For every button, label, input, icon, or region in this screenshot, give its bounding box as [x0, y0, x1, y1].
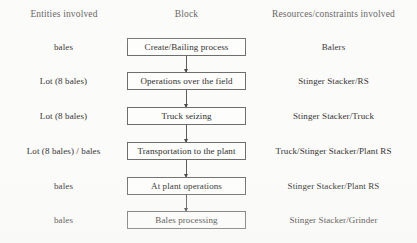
flow-row: bales At plant operations Stinger Stacke… [0, 177, 417, 195]
process-box[interactable]: Transportation to the plant [127, 142, 246, 160]
process-box[interactable]: Create/Bailing process [127, 38, 246, 56]
process-box[interactable]: At plant operations [127, 177, 246, 195]
arrow-down-icon [186, 125, 187, 142]
process-box[interactable]: Operations over the field [127, 72, 246, 90]
flow-row: Lot (8 bales) / bales Transportation to … [0, 142, 417, 160]
flow-row: Lot (8 bales) Truck seizing Stinger Stac… [0, 107, 417, 125]
process-box[interactable]: Truck seizing [127, 107, 246, 125]
flow-row: bales Create/Bailing process Balers [0, 38, 417, 56]
arrow-down-icon [186, 195, 187, 211]
entity-label: Lot (8 bales) / bales [0, 142, 127, 160]
column-header-block: Block [127, 9, 246, 19]
resource-label: Truck/Stinger Stacker/Plant RS [250, 142, 417, 160]
resource-label: Stinger Stacker/RS [250, 72, 417, 90]
resource-label: Stinger Stacker/Plant RS [250, 177, 417, 195]
entity-label: bales [0, 38, 127, 56]
column-header-resources: Resources/constraints involved [250, 9, 417, 19]
arrow-down-icon [186, 90, 187, 107]
entity-label: bales [0, 211, 127, 229]
process-box[interactable]: Bales processing [127, 211, 246, 229]
process-flow-diagram: Entities involved Block Resources/constr… [0, 0, 417, 243]
resource-label: Stinger Stacker/Truck [250, 107, 417, 125]
flow-row: Lot (8 bales) Operations over the field … [0, 72, 417, 90]
arrow-down-icon [186, 160, 187, 177]
resource-label: Stinger Stacker/Grinder [250, 211, 417, 229]
entity-label: bales [0, 177, 127, 195]
entity-label: Lot (8 bales) [0, 72, 127, 90]
arrow-down-icon [186, 56, 187, 72]
entity-label: Lot (8 bales) [0, 107, 127, 125]
flow-row: bales Bales processing Stinger Stacker/G… [0, 211, 417, 229]
column-header-entities: Entities involved [0, 9, 128, 19]
resource-label: Balers [250, 38, 417, 56]
